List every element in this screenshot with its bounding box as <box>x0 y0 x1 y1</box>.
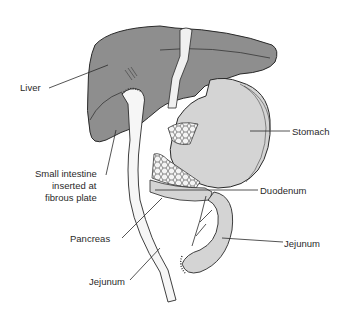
label-jejunum-right: Jejunum <box>284 238 320 249</box>
label-liver: Liver <box>20 82 41 93</box>
label-duodenum: Duodenum <box>260 185 306 196</box>
label-small-intestine-line1: Small intestine <box>35 168 97 179</box>
label-stomach: Stomach <box>292 126 330 137</box>
anatomy-illustration <box>0 0 348 309</box>
jejunum-loop-shape <box>181 192 233 274</box>
label-jejunum-bottom: Jejunum <box>89 276 125 287</box>
label-small-intestine-line2: inserted at <box>52 180 96 191</box>
label-small-intestine-line3: fibrous plate <box>45 192 97 203</box>
label-pancreas: Pancreas <box>70 233 110 244</box>
